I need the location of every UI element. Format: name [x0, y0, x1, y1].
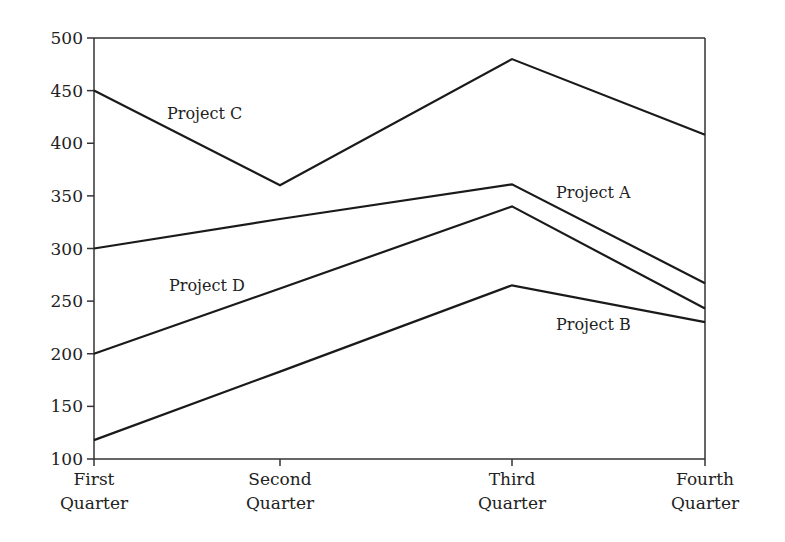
y-tick-label: 150	[51, 396, 83, 416]
y-tick-label: 500	[51, 28, 83, 48]
y-tick-label: 300	[51, 239, 83, 259]
x-axis-ticks: FirstQuarterSecondQuarterThirdQuarterFou…	[60, 459, 740, 513]
series-label-project-c: Project C	[167, 104, 242, 123]
x-tick-label-line: Quarter	[60, 493, 129, 513]
x-tick-label-line: Quarter	[478, 493, 547, 513]
x-tick-label: SecondQuarter	[246, 469, 315, 513]
x-tick-label-line: Third	[489, 469, 536, 489]
series-labels: Project AProject BProject CProject D	[167, 104, 631, 334]
x-tick-label-line: Quarter	[671, 493, 740, 513]
y-tick-label: 100	[51, 449, 83, 469]
y-tick-label: 200	[51, 344, 83, 364]
x-tick-label-line: First	[74, 469, 115, 489]
series-line-project-b	[94, 285, 705, 440]
x-tick-label-line: Quarter	[246, 493, 315, 513]
y-tick-label: 400	[51, 133, 83, 153]
x-tick-label-line: Fourth	[676, 469, 734, 489]
series-label-project-a: Project A	[556, 183, 631, 202]
series-label-project-b: Project B	[556, 315, 631, 334]
line-chart: 100150200250300350400450500 FirstQuarter…	[0, 0, 785, 542]
y-tick-label: 450	[51, 81, 83, 101]
x-tick-label: FourthQuarter	[671, 469, 740, 513]
x-tick-label: ThirdQuarter	[478, 469, 547, 513]
y-tick-label: 350	[51, 186, 83, 206]
axes	[94, 38, 705, 459]
x-tick-label: FirstQuarter	[60, 469, 129, 513]
series-label-project-d: Project D	[169, 276, 245, 295]
y-tick-label: 250	[51, 291, 83, 311]
y-axis-ticks: 100150200250300350400450500	[51, 28, 94, 469]
x-tick-label-line: Second	[248, 469, 311, 489]
